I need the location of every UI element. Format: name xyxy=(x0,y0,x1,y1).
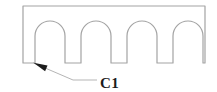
technical-drawing-canvas: C1 xyxy=(0,0,217,92)
part-outline xyxy=(23,6,205,63)
callout-arrowhead-icon xyxy=(34,63,48,71)
callout-label: C1 xyxy=(100,75,119,91)
slotted-part-diagram: C1 xyxy=(0,0,217,92)
